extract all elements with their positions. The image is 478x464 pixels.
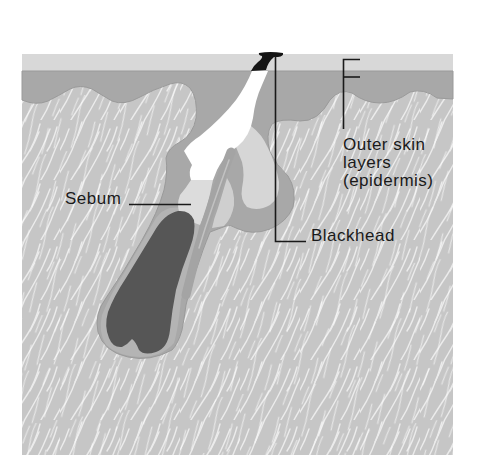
blackhead-skin-diagram: Outer skin layers (epidermis) Sebum Blac… [0,0,478,464]
epidermis-label: Outer skin layers (epidermis) [343,136,434,190]
sebum-label: Sebum [65,190,121,208]
skin-surface-layer [22,54,453,71]
skin-cross-section-illustration [0,0,478,464]
epidermis-label-line-2: layers [343,154,434,172]
blackhead-label: Blackhead [311,227,395,245]
epidermis-label-line-1: Outer skin [343,136,434,154]
epidermis-label-line-3: (epidermis) [343,172,434,190]
